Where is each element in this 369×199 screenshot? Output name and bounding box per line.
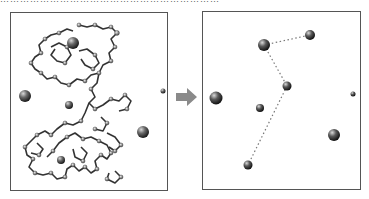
ion-sphere xyxy=(258,39,270,51)
ion-sphere xyxy=(305,30,315,40)
coarse-grained-model-panel xyxy=(202,11,361,190)
ions-right xyxy=(210,30,356,170)
ion-network-diagram xyxy=(203,12,362,191)
figure-caption: ………………………………………………………… xyxy=(0,0,369,4)
ion-sphere xyxy=(283,82,292,91)
ion-sphere xyxy=(161,89,166,94)
ion-sphere xyxy=(210,92,223,105)
right-arrow-icon xyxy=(176,88,198,106)
ion-sphere xyxy=(328,129,340,141)
ion-sphere xyxy=(67,37,79,49)
polymer-chain-diagram xyxy=(11,13,169,192)
ion-sphere xyxy=(351,92,356,97)
ion-sphere xyxy=(19,90,31,102)
ion-sphere xyxy=(57,156,65,164)
ion-sphere xyxy=(65,101,73,109)
ion-sphere xyxy=(244,161,253,170)
dotted-links xyxy=(248,35,310,165)
ion-sphere xyxy=(256,104,264,112)
ion-sphere xyxy=(137,126,149,138)
atomistic-model-panel xyxy=(10,12,168,191)
